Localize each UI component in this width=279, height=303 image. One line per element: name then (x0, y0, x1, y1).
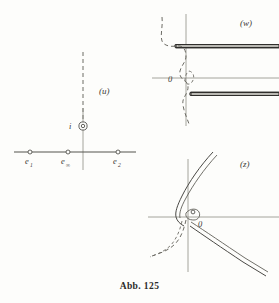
label-einf: e (61, 156, 65, 166)
label-e1-subscript: 1 (30, 162, 33, 168)
plane-z-dashed-branch (152, 220, 186, 256)
plane-u-point-einf (66, 150, 70, 154)
label-e1: e (25, 156, 29, 166)
plane-z-group: 0 (z) (148, 152, 279, 276)
label-einf-subscript: ∞ (66, 162, 70, 168)
figure-canvas: e 1 e ∞ e 2 i (u) (0, 0, 279, 303)
plane-u-point-e2 (116, 150, 120, 154)
plane-u-group: e 1 e ∞ e 2 i (u) (14, 52, 136, 170)
plane-u-point-i-inner (81, 124, 84, 127)
plane-w-boundary-dashed-curve (161, 17, 189, 124)
plane-z-dashed-branch-inner (150, 221, 182, 257)
label-plane-w: (w) (240, 18, 252, 28)
label-e2-subscript: 2 (118, 162, 121, 168)
label-plane-z: (z) (240, 159, 250, 169)
plane-z-upper-branch-inner (180, 155, 217, 218)
plane-z-upper-branch-turn (176, 217, 184, 226)
figure-caption: Abb. 125 (0, 281, 279, 291)
label-plane-u: (u) (99, 86, 110, 96)
plane-w-group: 0 (w) (152, 14, 279, 126)
figure-abb-125: e 1 e ∞ e 2 i (u) (0, 0, 279, 303)
plane-z-lower-branch-outer (190, 226, 266, 276)
label-plane-w-origin: 0 (168, 74, 173, 84)
label-plane-z-origin: 0 (198, 219, 203, 229)
plane-z-lower-branch-inner (191, 222, 268, 272)
plane-u-point-e1 (28, 150, 32, 154)
label-i: i (69, 121, 72, 131)
plane-z-origin-marker (191, 210, 195, 214)
label-e2: e (113, 156, 117, 166)
